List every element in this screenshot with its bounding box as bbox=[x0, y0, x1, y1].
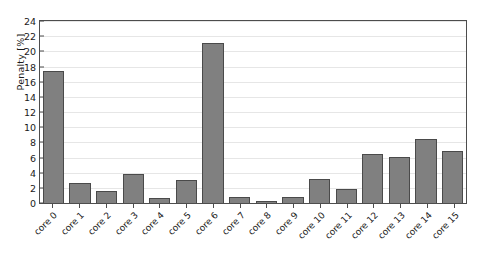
bar-slot bbox=[147, 21, 174, 203]
y-tick-label: 6 bbox=[30, 152, 36, 163]
bar-slot bbox=[40, 21, 67, 203]
bar-slot bbox=[120, 21, 147, 203]
bar bbox=[43, 71, 64, 203]
bar-slot bbox=[306, 21, 333, 203]
x-tick-slot: core 15 bbox=[440, 204, 467, 256]
bar-slot bbox=[173, 21, 200, 203]
y-tick-label: 22 bbox=[24, 31, 36, 42]
plot-area: 024681012141618202224 bbox=[39, 20, 467, 204]
y-tick-label: 10 bbox=[24, 122, 36, 133]
y-tick-label: 12 bbox=[24, 107, 36, 118]
bar-slot bbox=[253, 21, 280, 203]
bar-slot bbox=[413, 21, 440, 203]
x-axis-tick-labels: core 0core 1core 2core 3core 4core 5core… bbox=[39, 204, 467, 256]
y-tick-label: 14 bbox=[24, 91, 36, 102]
bar-slot bbox=[200, 21, 227, 203]
bar-slot bbox=[386, 21, 413, 203]
bar-chart-figure: Penalty [%] 024681012141618202224 core 0… bbox=[0, 0, 486, 256]
y-tick-label: 20 bbox=[24, 46, 36, 57]
y-tick-label: 4 bbox=[30, 167, 36, 178]
y-tick-label: 24 bbox=[24, 16, 36, 27]
bar-slot bbox=[226, 21, 253, 203]
bar-slot bbox=[439, 21, 466, 203]
bar-slot bbox=[93, 21, 120, 203]
y-tick-label: 2 bbox=[30, 182, 36, 193]
bar bbox=[202, 43, 223, 203]
y-tick-label: 8 bbox=[30, 137, 36, 148]
x-tick-mark bbox=[240, 204, 241, 208]
bar-slot bbox=[280, 21, 307, 203]
y-tick-label: 0 bbox=[30, 198, 36, 209]
bar-slot bbox=[67, 21, 94, 203]
x-tick-mark bbox=[347, 204, 348, 208]
y-tick-label: 18 bbox=[24, 61, 36, 72]
bar-slot bbox=[360, 21, 387, 203]
x-tick-mark bbox=[133, 204, 134, 208]
bar-slot bbox=[333, 21, 360, 203]
bar-series bbox=[40, 21, 466, 203]
x-tick-mark bbox=[454, 204, 455, 208]
x-tick-label-text: core 0 bbox=[33, 210, 60, 237]
y-tick-label: 16 bbox=[24, 76, 36, 87]
